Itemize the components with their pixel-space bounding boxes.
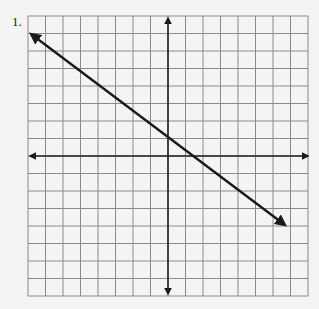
graphed-line [31,34,285,225]
coordinate-grid [0,0,319,309]
